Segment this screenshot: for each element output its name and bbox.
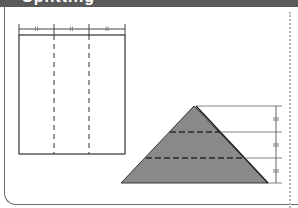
rectangle-shape [19,35,125,154]
triangle-shape [121,106,268,183]
diagram-canvas [0,0,298,208]
rectangle-dimension-line [19,24,125,35]
triangle-figure [121,106,282,183]
rectangle-figure [19,24,125,154]
